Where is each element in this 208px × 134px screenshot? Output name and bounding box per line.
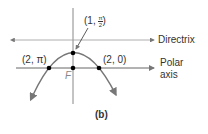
point-2-pi (47, 66, 52, 71)
axis-label: axis (160, 70, 178, 80)
focus-label: F (65, 71, 71, 81)
vertex-label-prefix: (1, (84, 15, 98, 26)
point-2-0-label: (2, 0) (103, 55, 126, 65)
pointer-arrow (76, 28, 88, 49)
figure-caption: (b) (95, 110, 108, 120)
point-vertex (71, 51, 76, 56)
directrix-label: Directrix (158, 35, 195, 45)
vertex-label: (1, π2) (84, 15, 106, 28)
point-focus (71, 66, 76, 71)
polar-label: Polar (160, 58, 183, 68)
vertex-label-suffix: ) (103, 15, 106, 26)
point-2-pi-label: (2, π) (22, 55, 47, 65)
point-2-0 (97, 66, 102, 71)
